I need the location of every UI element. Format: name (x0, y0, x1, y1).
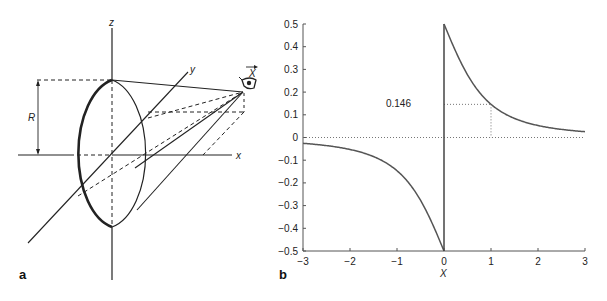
y-tick-label: 0.1 (284, 109, 298, 120)
panel-label-b: b (279, 267, 287, 282)
cone-line-top (112, 80, 243, 92)
z-axis-label: z (108, 17, 114, 28)
cone-line-dashed-center (148, 92, 243, 118)
x-axis-label: x (235, 150, 242, 161)
chart-tick-labels: 0.50.40.30.20.10−0.1−0.2−0.3−0.4−0.5−3−2… (278, 19, 588, 268)
r-arrow-up (36, 80, 40, 86)
x-tick-label: 1 (488, 256, 494, 267)
x-tick-label: −3 (297, 256, 309, 267)
r-arrow-down (36, 149, 40, 155)
y-tick-label: −0.1 (278, 155, 298, 166)
y-tick-label: −0.5 (278, 246, 298, 257)
panel-a-diagram (18, 28, 258, 280)
x-tick-label: −2 (344, 256, 356, 267)
cone-line-dashed-left (78, 92, 243, 196)
curve-negative-branch (303, 143, 444, 251)
y-tick-label: −0.3 (278, 200, 298, 211)
annotation-value: 0.146 (386, 98, 411, 109)
x-axis-title: X (439, 268, 447, 279)
y-tick-label: 0.5 (284, 19, 298, 30)
y-tick-label: −0.4 (278, 223, 298, 234)
disk-ellipse-back (112, 80, 146, 227)
x-tick-label: −1 (391, 256, 403, 267)
y-axis-label: y (189, 64, 196, 75)
observer-label: X (248, 68, 256, 79)
panel-b-chart: 0.50.40.30.20.10−0.1−0.2−0.3−0.4−0.5−3−2… (278, 19, 588, 268)
y-tick-label: 0.2 (284, 87, 298, 98)
y-tick-label: −0.2 (278, 177, 298, 188)
x-tick-label: 2 (535, 256, 541, 267)
figure: z y x R X a 0.50.40.30.20.10−0.1−0.2−0.3… (0, 0, 607, 301)
y-tick-label: 0.4 (284, 41, 298, 52)
panel-label-a: a (19, 267, 27, 282)
y-tick-label: 0 (292, 132, 298, 143)
y-tick-label: 0.3 (284, 64, 298, 75)
proj-diagonal (203, 112, 244, 155)
radius-label: R (28, 112, 35, 123)
curve-positive-branch (444, 24, 585, 132)
disk-ellipse-front (78, 80, 112, 227)
y-axis (28, 72, 188, 243)
x-tick-label: 0 (441, 256, 447, 267)
x-tick-label: 3 (582, 256, 588, 267)
